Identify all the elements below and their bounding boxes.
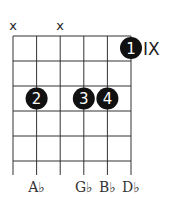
note-name-label: B♭: [99, 179, 116, 195]
finger-dot: 3: [73, 88, 95, 110]
finger-dot: 1: [120, 37, 142, 59]
finger-dot: 2: [26, 88, 48, 110]
muted-strings: xx: [9, 18, 64, 33]
finger-number: 3: [79, 90, 89, 108]
muted-string-marker: x: [9, 18, 17, 33]
finger-number: 2: [32, 90, 42, 108]
finger-number: 1: [126, 40, 136, 58]
finger-number: 4: [103, 90, 113, 108]
note-name-label: A♭: [27, 179, 45, 195]
note-name-label: G♭: [75, 179, 93, 195]
finger-dot: 4: [96, 88, 118, 110]
note-labels: A♭G♭B♭D♭: [27, 179, 140, 195]
fret-position-label: IX: [143, 39, 160, 59]
muted-string-marker: x: [56, 18, 64, 33]
chord-diagram: xx 1234 IX A♭G♭B♭D♭: [0, 0, 170, 214]
note-name-label: D♭: [122, 179, 140, 195]
